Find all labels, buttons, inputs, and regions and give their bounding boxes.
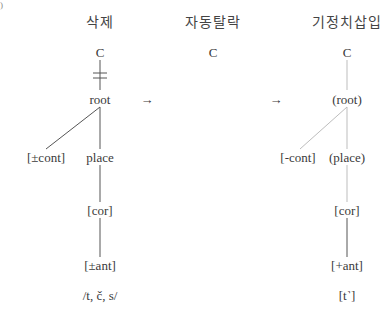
insertion-cor-node: [cor] <box>334 204 359 217</box>
arrow-icon: → <box>141 93 154 106</box>
auto-drop-title: 자동탈락 <box>185 15 241 29</box>
deletion-segments: /t, č, s/ <box>83 289 118 302</box>
insertion-title: 기정치삽입 <box>312 15 382 29</box>
deletion-ant-node: [±ant] <box>84 259 116 272</box>
deletion-place-node: place <box>86 151 113 164</box>
insertion-cont-node: [-cont] <box>280 151 315 164</box>
deletion-cont-node: [±cont] <box>27 151 65 164</box>
arrow-icon: → <box>270 93 283 106</box>
deletion-cor-node: [cor] <box>87 204 112 217</box>
auto-drop-c-node: C <box>209 46 218 59</box>
deletion-root-node: root <box>90 93 111 106</box>
deletion-title: 삭제 <box>86 15 114 29</box>
insertion-root-node: (root) <box>332 93 362 106</box>
deletion-c-node: C <box>96 46 105 59</box>
insertion-c-node: C <box>343 46 352 59</box>
insertion-segments: [t˺] <box>339 289 356 302</box>
insertion-place-node: (place) <box>329 151 365 164</box>
insertion-ant-node: [+ant] <box>331 259 363 272</box>
